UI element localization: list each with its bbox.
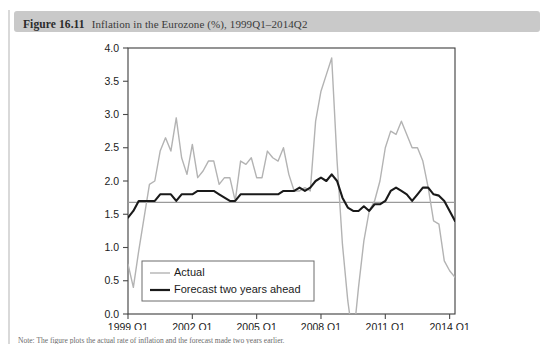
legend-box bbox=[142, 261, 314, 301]
x-tick-label: 2005 Q1 bbox=[237, 321, 277, 330]
y-tick-label: 3.5 bbox=[104, 75, 119, 87]
chart-legend: ActualForecast two years ahead bbox=[142, 261, 314, 301]
figure-container: Figure 16.11Inflation in the Eurozone (%… bbox=[0, 0, 558, 344]
figure-caption-bar: Figure 16.11Inflation in the Eurozone (%… bbox=[14, 11, 540, 32]
inflation-line-chart: 0.00.51.01.52.02.53.03.54.0 1999 Q12002 … bbox=[0, 34, 558, 330]
legend-label-actual: Actual bbox=[174, 266, 205, 278]
y-tick-label: 3.0 bbox=[104, 108, 119, 120]
x-tick-label: 2011 Q1 bbox=[366, 321, 406, 330]
figure-number: Figure 16.11 bbox=[23, 18, 85, 30]
x-axis-tick-labels: 1999 Q12002 Q12005 Q12008 Q12011 Q12014 … bbox=[108, 321, 470, 330]
x-tick-label: 1999 Q1 bbox=[108, 321, 148, 330]
y-tick-label: 4.0 bbox=[104, 42, 119, 54]
y-tick-label: 0.0 bbox=[104, 308, 119, 320]
y-axis-tick-labels: 0.00.51.01.52.02.53.03.54.0 bbox=[104, 42, 119, 320]
x-tick-label: 2008 Q1 bbox=[301, 321, 341, 330]
figure-caption-text: Inflation in the Eurozone (%), 1999Q1–20… bbox=[92, 18, 308, 30]
y-tick-label: 1.0 bbox=[104, 241, 119, 253]
chart-plot-area: 0.00.51.01.52.02.53.03.54.0 1999 Q12002 … bbox=[0, 34, 558, 330]
x-tick-label: 2014 Q1 bbox=[429, 321, 469, 330]
legend-label-forecast: Forecast two years ahead bbox=[174, 283, 301, 295]
y-tick-label: 0.5 bbox=[104, 274, 119, 286]
figure-source-note: Note: The figure plots the actual rate o… bbox=[18, 336, 538, 344]
y-tick-label: 2.0 bbox=[104, 175, 119, 187]
y-tick-label: 2.5 bbox=[104, 141, 119, 153]
y-tick-label: 1.5 bbox=[104, 208, 119, 220]
x-tick-label: 2002 Q1 bbox=[172, 321, 212, 330]
